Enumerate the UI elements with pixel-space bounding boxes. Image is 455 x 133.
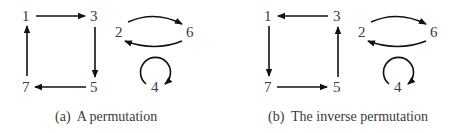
- node-6: 6: [430, 24, 438, 40]
- node-5: 5: [90, 79, 98, 95]
- arrow-6-to-2: [125, 41, 182, 47]
- panel-a: 1 3 5 7 2 6 4 (a) A permutation: [22, 8, 194, 125]
- caption-a: (a) A permutation: [55, 109, 157, 125]
- node-2: 2: [358, 24, 366, 40]
- node-1: 1: [22, 8, 30, 24]
- arrow-2-to-6: [128, 16, 182, 24]
- caption-b: (b) The inverse permutation: [268, 109, 428, 125]
- node-3: 3: [333, 8, 341, 24]
- permutation-diagram: 1 3 5 7 2 6 4 (a) A permutation 1 3 5 7 …: [0, 0, 455, 133]
- arrow-6-to-2: [368, 41, 426, 47]
- node-4: 4: [151, 79, 159, 95]
- node-5: 5: [333, 79, 341, 95]
- node-7: 7: [22, 79, 30, 95]
- node-7: 7: [264, 79, 272, 95]
- node-3: 3: [90, 8, 98, 24]
- node-1: 1: [264, 8, 272, 24]
- node-2: 2: [115, 24, 123, 40]
- node-6: 6: [186, 24, 194, 40]
- arrow-2-to-6: [371, 16, 426, 24]
- node-4: 4: [394, 79, 402, 95]
- panel-b: 1 3 5 7 2 6 4 (b) The inverse permutatio…: [264, 8, 438, 125]
